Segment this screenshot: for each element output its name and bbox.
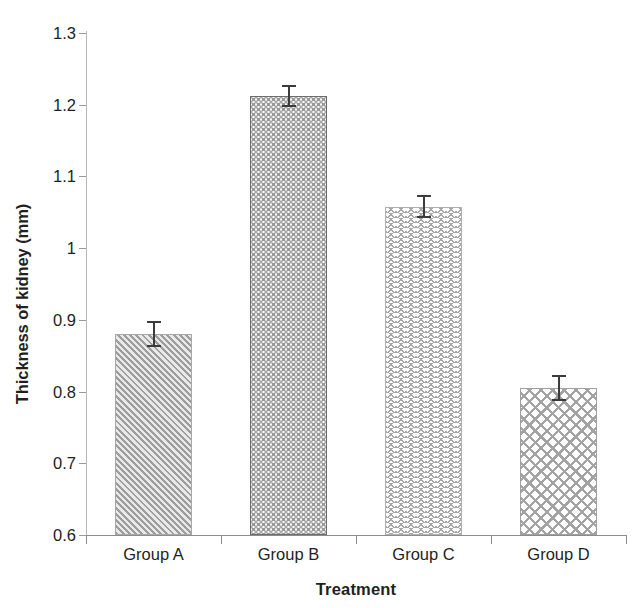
bar-group-b	[250, 96, 327, 535]
x-axis-tick-mark	[221, 535, 222, 544]
error-bar-group-b	[282, 85, 296, 107]
bar-chart: Thickness of kidney (mm) 1.31.21.110.90.…	[0, 0, 639, 608]
y-axis-tick-label: 1.1	[24, 167, 86, 186]
error-bar-stem	[153, 321, 155, 347]
y-axis-tick-label: 0.7	[24, 454, 86, 473]
x-axis-tick-mark	[86, 535, 87, 544]
y-axis-tick-label: 1	[24, 239, 86, 258]
bar-group-c	[385, 207, 462, 535]
y-axis-tick-label: 1.3	[24, 24, 86, 43]
error-bar-cap-bottom	[147, 345, 161, 347]
x-axis-tick-mark	[626, 535, 627, 544]
y-axis-tick-label: 0.6	[24, 526, 86, 545]
error-bar-cap-bottom	[282, 105, 296, 107]
x-axis-tick-label: Group D	[491, 545, 626, 564]
y-axis-tick-label: 0.9	[24, 310, 86, 329]
error-bar-stem	[558, 375, 560, 401]
error-bar-group-d	[552, 375, 566, 401]
x-axis-title: Treatment	[86, 580, 626, 599]
error-bar-cap-bottom	[417, 216, 431, 218]
error-bar-stem	[423, 195, 425, 218]
y-axis-tick-label: 0.8	[24, 382, 86, 401]
error-bar-stem	[288, 85, 290, 107]
y-axis-tick-label: 1.2	[24, 95, 86, 114]
error-bar-group-c	[417, 195, 431, 218]
y-axis-tick-group: 1.31.21.110.90.80.70.6	[0, 0, 86, 608]
bar-group-a	[115, 334, 192, 535]
x-axis-tick-mark	[356, 535, 357, 544]
error-bar-cap-bottom	[552, 399, 566, 401]
x-axis-tick-label: Group A	[86, 545, 221, 564]
error-bar-group-a	[147, 321, 161, 347]
bar-group-d	[520, 388, 597, 535]
x-axis-tick-mark	[491, 535, 492, 544]
x-axis-tick-label: Group B	[221, 545, 356, 564]
x-axis-tick-label: Group C	[356, 545, 491, 564]
